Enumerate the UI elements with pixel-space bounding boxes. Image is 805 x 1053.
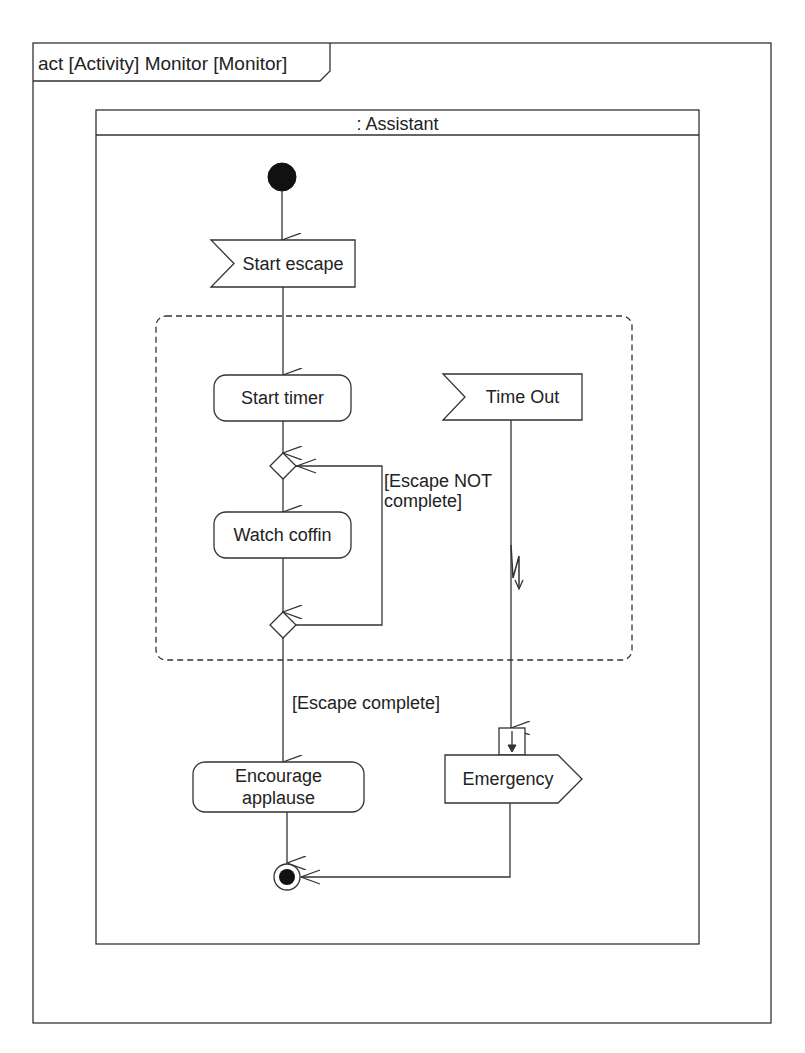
emergency-label: Emergency — [445, 755, 571, 803]
partition-lane — [96, 110, 699, 944]
guard-escape-not-complete: [Escape NOT complete] — [384, 471, 492, 511]
partition-name: : Assistant — [96, 115, 699, 133]
time-out-label: Time Out — [464, 374, 581, 420]
guard-not-complete-line-1: [Escape NOT — [384, 471, 492, 491]
encourage-applause-line-2: applause — [242, 787, 315, 809]
guard-escape-complete: [Escape complete] — [292, 694, 440, 712]
initial-node[interactable] — [268, 163, 296, 191]
guard-not-complete-line-2: complete] — [384, 491, 492, 511]
encourage-applause-line-1: Encourage — [235, 765, 322, 787]
start-escape-label: Start escape — [232, 240, 354, 287]
activity-final-node-inner — [279, 869, 295, 885]
frame-title: act [Activity] Monitor [Monitor] — [38, 54, 287, 73]
encourage-applause-label: Encourage applause — [193, 762, 364, 812]
activity-diagram — [0, 0, 805, 1053]
start-timer-label: Start timer — [214, 375, 351, 421]
watch-coffin-label: Watch coffin — [214, 512, 351, 558]
